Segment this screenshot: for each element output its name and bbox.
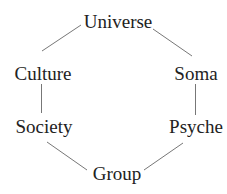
node-universe: Universe (84, 12, 153, 32)
edge-universe-culture (42, 25, 81, 51)
edge-society-group (47, 142, 87, 170)
edge-universe-soma (153, 29, 192, 56)
edge-psyche-group (144, 143, 183, 170)
hexagon-diagram: Universe Soma Psyche Group Society Cultu… (0, 0, 227, 194)
node-soma: Soma (174, 64, 217, 84)
node-culture: Culture (15, 64, 72, 84)
node-group: Group (93, 164, 142, 184)
node-psyche: Psyche (169, 117, 223, 137)
node-society: Society (16, 117, 73, 137)
